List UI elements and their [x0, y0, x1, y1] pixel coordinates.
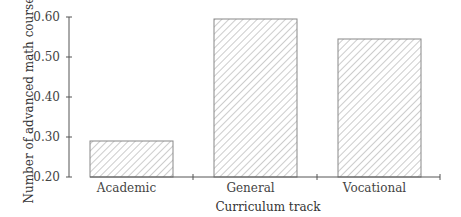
y-tick-label: 0.30: [33, 130, 60, 144]
y-tick-label: 0.50: [33, 50, 60, 64]
y-axis-title: Number of advanced math courses: [22, 0, 36, 203]
bar-vocational: [338, 39, 421, 177]
x-axis-title: Curriculum track: [215, 200, 321, 214]
bars-group: [90, 19, 421, 177]
y-tick-label: 0.40: [33, 90, 60, 104]
y-tick-label: 0.60: [33, 10, 60, 24]
bar-academic: [90, 141, 173, 177]
y-tick-label: 0.20: [33, 170, 60, 184]
x-tick-label: General: [226, 181, 274, 195]
bar-general: [214, 19, 297, 177]
x-tick-label: Vocational: [342, 181, 406, 195]
x-tick-label: Academic: [96, 181, 157, 195]
bar-chart: 0.200.300.400.500.60AcademicGeneralVocat…: [0, 0, 461, 217]
